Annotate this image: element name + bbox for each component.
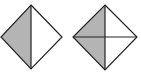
fraction-diagram	[0, 0, 141, 75]
diamond-quarters	[73, 5, 137, 70]
diamond-halves	[1, 5, 62, 69]
shaded-left-half	[1, 5, 31, 69]
